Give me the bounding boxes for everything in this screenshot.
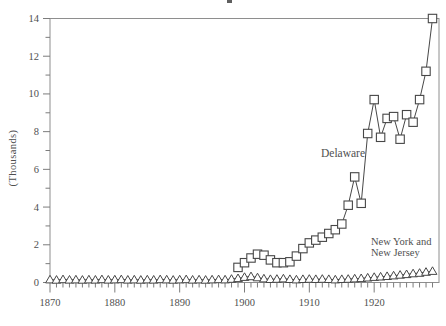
x-tick-label: 1880: [104, 297, 125, 308]
triangle-marker: [428, 267, 437, 275]
chart-figure: 02468101214187018801890190019101920 (Tho…: [0, 0, 446, 326]
square-marker: [376, 133, 384, 141]
square-marker: [409, 118, 417, 126]
square-marker: [344, 201, 352, 209]
y-tick-label: 12: [29, 51, 40, 62]
square-marker: [351, 173, 359, 181]
x-tick-label: 1900: [234, 297, 255, 308]
chart-canvas: 02468101214187018801890190019101920: [0, 0, 446, 326]
y-axis-ticks: 02468101214: [29, 13, 51, 288]
x-tick-label: 1920: [364, 297, 385, 308]
ny-nj-series-label-line2: New Jersey: [371, 247, 431, 258]
y-tick-label: 2: [34, 239, 39, 250]
y-tick-label: 6: [34, 164, 39, 175]
square-marker: [422, 67, 430, 75]
square-marker: [364, 129, 372, 137]
ny-nj-series-label-line1: New York and: [371, 236, 431, 247]
y-tick-label: 0: [34, 277, 39, 288]
y-axis-title: (Thousands): [7, 130, 18, 187]
y-tick-label: 10: [29, 88, 40, 99]
x-tick-label: 1870: [40, 297, 61, 308]
square-marker: [338, 220, 346, 228]
square-marker: [428, 14, 436, 22]
square-marker: [357, 199, 365, 207]
square-marker: [415, 95, 423, 103]
x-tick-label: 1890: [169, 297, 190, 308]
x-axis-ticks: 187018801890190019101920: [40, 283, 433, 308]
y-tick-label: 8: [34, 126, 39, 137]
series-delaware: [234, 14, 437, 271]
ny-nj-series-label: New York and New Jersey: [371, 236, 431, 258]
y-tick-label: 14: [29, 13, 40, 24]
y-tick-label: 4: [34, 202, 40, 213]
square-marker: [396, 135, 404, 143]
square-marker: [389, 112, 397, 120]
delaware-series-label: Delaware: [321, 147, 365, 159]
square-marker: [370, 95, 378, 103]
x-tick-label: 1910: [299, 297, 320, 308]
